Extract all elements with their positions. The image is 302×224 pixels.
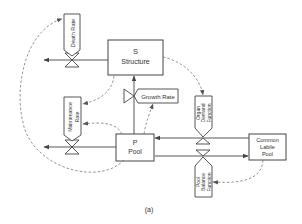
labile-to-pool-balance-link [213, 160, 263, 182]
pool-balance-line3: Function [206, 172, 212, 191]
maintenance-rate-valve: Maintenance Rate [64, 97, 81, 154]
pool-symbol: P [133, 139, 138, 146]
common-labile-line2: Labile [260, 144, 275, 150]
common-labile-pool-box: Common Labile Pool [249, 134, 286, 160]
diagram-canvas: S Structure P Pool Common Labile Pool De… [0, 0, 302, 224]
pool-box: P Pool [116, 134, 154, 161]
growth-rate-valve: Growth Rate [124, 89, 178, 103]
common-labile-line1: Common [256, 137, 279, 143]
structure-box: S Structure [108, 40, 163, 75]
valve-icon [196, 150, 210, 156]
death-rate-valve: Death Rate [64, 14, 80, 67]
figure-caption: (a) [145, 206, 154, 214]
organ-demand-function-valve: Organ Demand Function [195, 96, 213, 144]
valve-icon [196, 138, 210, 144]
pool-label: Pool [128, 148, 142, 155]
valve-icon [124, 89, 134, 103]
structure-symbol: S [133, 47, 138, 56]
common-labile-line3: Pool [262, 151, 273, 157]
maintenance-rate-line1: Maintenance [67, 102, 73, 132]
pool-balance-function-valve: Pool Balance Function [195, 150, 213, 197]
death-rate-label: Death Rate [70, 19, 76, 47]
growth-rate-label: Growth Rate [141, 94, 175, 100]
organ-demand-line3: Function [206, 103, 212, 122]
pool-to-maintenance-link [83, 123, 122, 134]
structure-label: Structure [121, 58, 150, 65]
structure-to-maintenance-link [83, 76, 114, 104]
maintenance-rate-line2: Rate [74, 111, 80, 122]
pool-to-growth-link [144, 104, 153, 134]
